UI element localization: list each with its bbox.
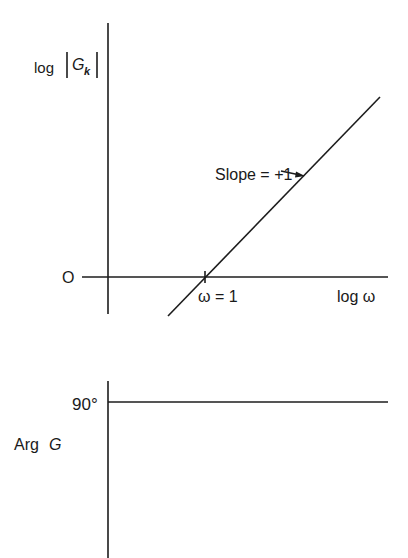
- zero-label: O: [62, 269, 74, 286]
- phase-90-label: 90°: [72, 395, 98, 414]
- phase-y-label-prefix: Arg: [14, 436, 39, 453]
- magnitude-y-label-prefix: log: [34, 59, 54, 76]
- phase-plot: Arg G 90°: [14, 381, 388, 558]
- omega-one-label: ω = 1: [198, 288, 238, 305]
- magnitude-y-label-sub: k: [84, 65, 91, 77]
- slope-annotation: Slope = +1: [215, 166, 293, 183]
- bode-diagram: log G k O ω = 1 log ω Slope = +1 Arg G 9…: [0, 0, 408, 558]
- slope-line: [168, 97, 380, 316]
- magnitude-x-label: log ω: [337, 288, 375, 305]
- magnitude-plot: log G k O ω = 1 log ω Slope = +1: [34, 23, 388, 316]
- phase-y-label-var: G: [49, 436, 61, 453]
- magnitude-y-label-var: G: [72, 56, 84, 73]
